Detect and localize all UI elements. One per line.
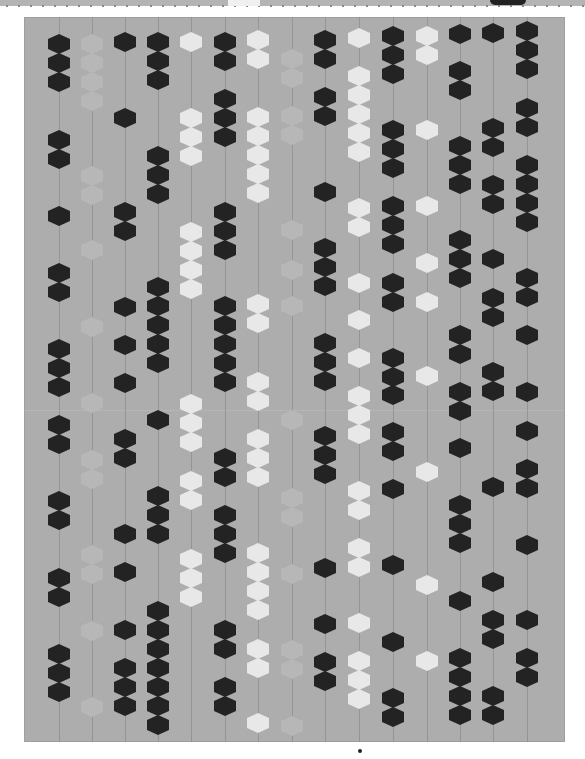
hexagon-dark bbox=[314, 352, 336, 372]
hexagon-dark bbox=[48, 263, 70, 283]
hexagon-dark bbox=[147, 32, 169, 52]
hexagon-dark bbox=[214, 240, 236, 260]
hexagon-white bbox=[247, 126, 269, 146]
hexagon-dark bbox=[382, 26, 404, 46]
hexagon-dark bbox=[382, 120, 404, 140]
stitch-mark bbox=[6, 5, 8, 7]
hexagon-white bbox=[416, 120, 438, 140]
hexagon-dark bbox=[214, 620, 236, 640]
hexagon-dark bbox=[147, 184, 169, 204]
stitch-mark bbox=[558, 5, 560, 7]
hexagon-dark bbox=[382, 422, 404, 442]
hexagon-faint bbox=[81, 91, 103, 111]
hexagon-dark bbox=[314, 371, 336, 391]
hexagon-dark bbox=[114, 221, 136, 241]
stitch-mark bbox=[222, 5, 224, 7]
hexagon-dark bbox=[382, 707, 404, 727]
hexagon-white bbox=[247, 639, 269, 659]
hexagon-white bbox=[348, 348, 370, 368]
hexagon-dark bbox=[449, 401, 471, 421]
hexagon-faint bbox=[281, 49, 303, 69]
hexagon-white bbox=[247, 145, 269, 165]
stitch-mark bbox=[78, 5, 80, 7]
hexagon-dark bbox=[48, 53, 70, 73]
hexagon-dark bbox=[382, 688, 404, 708]
hexagon-faint bbox=[81, 240, 103, 260]
hexagon-dark bbox=[314, 30, 336, 50]
stitch-mark bbox=[102, 5, 104, 7]
hexagon-dark bbox=[114, 297, 136, 317]
hexagon-dark bbox=[314, 182, 336, 202]
hexagon-white bbox=[247, 49, 269, 69]
hexagon-dark bbox=[449, 591, 471, 611]
hexagon-dark bbox=[382, 367, 404, 387]
hexagon-dark bbox=[382, 234, 404, 254]
hexagon-dark bbox=[147, 70, 169, 90]
hexagon-white bbox=[247, 448, 269, 468]
hexagon-faint bbox=[281, 260, 303, 280]
hexagon-dark bbox=[482, 288, 504, 308]
hexagon-white bbox=[348, 142, 370, 162]
hexagon-white bbox=[348, 405, 370, 425]
hexagon-dark bbox=[114, 108, 136, 128]
hexagon-faint bbox=[281, 659, 303, 679]
stitch-mark bbox=[366, 5, 368, 7]
hexagon-white bbox=[247, 658, 269, 678]
hexagon-dark bbox=[382, 441, 404, 461]
hexagon-dark bbox=[114, 677, 136, 697]
hexagon-dark bbox=[482, 610, 504, 630]
hexagon-dark bbox=[114, 620, 136, 640]
hexagon-white bbox=[348, 217, 370, 237]
stitch-mark bbox=[66, 5, 68, 7]
hexagon-dark bbox=[449, 80, 471, 100]
hexagon-dark bbox=[147, 696, 169, 716]
hexagon-dark bbox=[449, 249, 471, 269]
hexagon-dark bbox=[314, 671, 336, 691]
hexagon-dark bbox=[48, 72, 70, 92]
hexagon-dark bbox=[147, 51, 169, 71]
hexagon-dark bbox=[314, 558, 336, 578]
hexagon-faint bbox=[281, 68, 303, 88]
hexagon-white bbox=[416, 292, 438, 312]
hexagon-dark bbox=[214, 202, 236, 222]
hexagon-dark bbox=[482, 572, 504, 592]
hexagon-white bbox=[247, 391, 269, 411]
hexagon-dark bbox=[147, 486, 169, 506]
hexagon-white bbox=[416, 253, 438, 273]
stitch-mark bbox=[354, 5, 356, 7]
hexagon-white bbox=[180, 32, 202, 52]
hexagon-faint bbox=[81, 545, 103, 565]
hexagon-dark bbox=[449, 155, 471, 175]
hexagon-dark bbox=[214, 543, 236, 563]
hexagon-dark bbox=[114, 696, 136, 716]
hexagon-dark bbox=[449, 344, 471, 364]
hexagon-dark bbox=[516, 610, 538, 630]
hexagon-white bbox=[180, 394, 202, 414]
stitch-mark bbox=[438, 5, 440, 7]
hexagon-dark bbox=[516, 325, 538, 345]
hexagon-faint bbox=[81, 621, 103, 641]
hexagon-white bbox=[416, 366, 438, 386]
hexagon-dark bbox=[382, 385, 404, 405]
hexagon-white bbox=[416, 26, 438, 46]
stitch-mark bbox=[498, 5, 500, 7]
hexagon-white bbox=[348, 28, 370, 48]
hexagon-dark bbox=[516, 40, 538, 60]
hexagon-dark bbox=[214, 639, 236, 659]
quilt bbox=[24, 17, 565, 742]
quilting-line bbox=[460, 17, 461, 742]
hexagon-faint bbox=[81, 317, 103, 337]
hexagon-dark bbox=[314, 614, 336, 634]
hexagon-white bbox=[348, 310, 370, 330]
hexagon-white bbox=[348, 613, 370, 633]
stitch-mark bbox=[462, 5, 464, 7]
stitch-mark bbox=[186, 5, 188, 7]
hexagon-white bbox=[416, 462, 438, 482]
hexagon-faint bbox=[281, 564, 303, 584]
hexagon-dark bbox=[449, 24, 471, 44]
hexagon-white bbox=[247, 313, 269, 333]
hexagon-dark bbox=[516, 459, 538, 479]
hexagon-white bbox=[180, 146, 202, 166]
stitch-mark bbox=[486, 5, 488, 7]
hexagon-dark bbox=[516, 421, 538, 441]
